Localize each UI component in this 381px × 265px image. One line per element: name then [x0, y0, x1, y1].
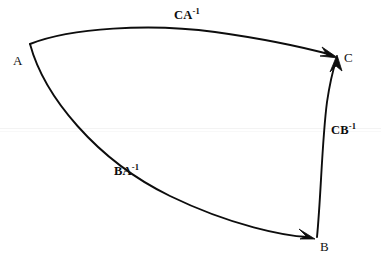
- edge-path-cb-inverse: [317, 61, 336, 237]
- vertex-label-c: C: [344, 51, 353, 64]
- edge-label-cb-exponent: -1: [349, 121, 356, 131]
- edge-label-ca-inverse: CA-1: [174, 9, 200, 22]
- vertex-label-a: A: [13, 54, 22, 67]
- edge-label-ba-exponent: -1: [132, 162, 139, 172]
- edge-label-ca-exponent: -1: [192, 6, 199, 16]
- diagram-strokes: [0, 0, 381, 265]
- diagram-canvas: A C B CA-1 CB-1 BA-1: [0, 0, 381, 265]
- edge-path-ba-inverse: [30, 44, 308, 237]
- edge-label-ba-base: BA: [114, 164, 132, 178]
- edge-label-cb-base: CB: [331, 123, 349, 137]
- edge-label-cb-inverse: CB-1: [331, 124, 356, 137]
- edge-path-ca-inverse: [30, 28, 332, 55]
- edge-label-ba-inverse: BA-1: [114, 165, 139, 178]
- edge-label-ca-base: CA: [174, 8, 192, 22]
- vertex-label-b: B: [320, 240, 329, 253]
